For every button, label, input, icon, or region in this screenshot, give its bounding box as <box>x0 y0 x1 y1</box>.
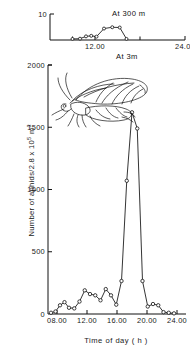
bottom-x-tick-20.00: 20.00 <box>137 316 157 325</box>
top-datapoint <box>71 37 74 40</box>
bottom-datapoint <box>78 300 81 303</box>
bottom-x-tick-16.00: 16.00 <box>107 316 127 325</box>
bottom-y-tick-500: 500 <box>32 247 45 256</box>
bottom-datapoint <box>120 279 123 282</box>
top-datapoint <box>90 34 93 37</box>
bottom-datapoint <box>104 287 107 290</box>
top-datapoint <box>118 26 121 29</box>
top-panel-series <box>71 26 128 41</box>
bottom-datapoint <box>141 279 144 282</box>
bottom-datapoint <box>115 303 118 306</box>
bottom-datapoint <box>67 306 70 309</box>
bottom-datapoint <box>88 292 91 295</box>
bottom-panel-annotation: At 3m <box>116 52 138 61</box>
bottom-datapoint <box>151 302 154 305</box>
top-y-tick-10: 10 <box>38 10 47 19</box>
bottom-y-tick-1000: 1000 <box>27 185 45 194</box>
top-datapoint <box>85 35 88 38</box>
bottom-datapoint <box>54 310 57 313</box>
bottom-x-tick-08.00: 08.00 <box>47 316 67 325</box>
bottom-panel-axes <box>48 65 186 314</box>
bottom-datapoint <box>94 294 97 297</box>
x-axis-label: Time of day ( h ) <box>46 336 186 345</box>
bottom-datapoint <box>63 300 66 303</box>
winged-aphid-icon <box>52 73 147 127</box>
bottom-y-tick-2000: 2000 <box>27 61 45 70</box>
bottom-datapoint <box>136 127 139 130</box>
bottom-panel-series <box>49 111 175 315</box>
aphid-flight-figure: At 300 m At 3m Number of aphids/2.8 x 10… <box>0 0 190 352</box>
bottom-datapoint <box>58 304 61 307</box>
bottom-y-tick-0: 0 <box>41 310 45 319</box>
top-x-tick-12.00: 12.00 <box>85 42 105 51</box>
bottom-datapoint <box>157 304 160 307</box>
top-x-tick-24.00: 24.00 <box>175 42 190 51</box>
bottom-datapoint <box>49 311 52 314</box>
y-axis-label-exponent: 5 <box>26 137 32 140</box>
bottom-datapoint <box>162 310 165 313</box>
top-datapoint <box>79 37 82 40</box>
top-datapoint <box>111 26 114 29</box>
bottom-datapoint <box>167 311 170 314</box>
top-panel-annotation: At 300 m <box>112 9 146 18</box>
bottom-x-tick-12.00: 12.00 <box>77 316 97 325</box>
top-datapoint <box>125 37 128 40</box>
bottom-datapoint <box>172 312 175 315</box>
bottom-datapoint <box>125 179 128 182</box>
bottom-datapoint <box>109 294 112 297</box>
bottom-datapoint <box>83 289 86 292</box>
bottom-datapoint <box>73 307 76 310</box>
top-datapoint <box>103 27 106 30</box>
bottom-x-tick-24.00: 24.00 <box>167 316 187 325</box>
bottom-datapoint <box>99 299 102 302</box>
bottom-y-tick-1500: 1500 <box>27 123 45 132</box>
top-datapoint <box>95 35 98 38</box>
bottom-datapoint <box>146 305 149 308</box>
